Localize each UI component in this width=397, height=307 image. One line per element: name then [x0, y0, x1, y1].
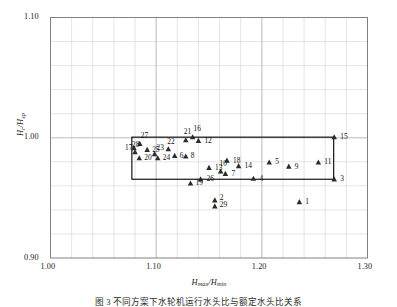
data-point-label: 19: [196, 179, 203, 186]
data-point-marker: [183, 153, 189, 158]
data-point-label: 18: [233, 157, 240, 164]
x-tick-label: 1.20: [252, 262, 267, 271]
x-tick-label: 1.00: [41, 262, 56, 271]
data-point-label: 22: [167, 138, 174, 145]
data-point-marker: [144, 147, 150, 152]
data-point-label: 9: [295, 163, 299, 170]
data-point-marker: [172, 153, 178, 158]
data-point-label: 7: [231, 170, 235, 177]
data-point-marker: [196, 138, 202, 143]
data-point-label: 1: [305, 198, 309, 205]
data-point-label: 16: [194, 125, 201, 132]
data-point-marker: [206, 165, 212, 170]
data-point-marker: [223, 171, 229, 176]
x-tick-label: 1.10: [146, 262, 161, 271]
data-point-marker: [166, 146, 172, 151]
x-tick-label: 1.30: [358, 262, 373, 271]
data-point-label: 25: [152, 146, 159, 153]
data-point-label: 11: [324, 158, 331, 165]
data-point-label: 15: [340, 133, 347, 140]
data-point-label: 12: [204, 137, 211, 144]
data-point-marker: [212, 203, 218, 208]
x-axis-label: Hmax/Hmin: [50, 278, 368, 287]
data-point-label: 29: [220, 201, 227, 208]
data-point-marker: [297, 199, 303, 204]
data-point-label: 24: [163, 154, 170, 161]
data-point-label: 28: [132, 141, 139, 148]
data-point-label: 14: [245, 162, 252, 169]
data-point-marker: [286, 164, 292, 169]
data-point-marker: [137, 155, 143, 160]
data-point-label: 6: [180, 152, 184, 159]
data-point-label: 20: [144, 154, 151, 161]
y-axis-label: Hr/Hsp: [16, 95, 25, 155]
figure-caption: 图 3 不同方案下水轮机运行水头比与额定水头比关系: [0, 295, 397, 307]
data-point-marker: [251, 176, 257, 181]
data-point-marker: [188, 180, 194, 185]
data-point-label: 27: [141, 132, 148, 139]
data-point-marker: [212, 197, 218, 202]
data-point-label: 5: [275, 158, 279, 165]
data-point-label: 21: [184, 128, 191, 135]
data-point-label: 26: [207, 175, 214, 182]
data-point-label: 8: [191, 152, 195, 159]
data-point-label: 13: [215, 164, 222, 171]
y-tick-label: 0.90: [24, 253, 39, 262]
data-point-label: 4: [259, 175, 263, 182]
data-point-label: 3: [340, 175, 344, 182]
y-tick-label: 1.10: [24, 12, 39, 21]
y-tick-label: 1.00: [24, 132, 39, 141]
